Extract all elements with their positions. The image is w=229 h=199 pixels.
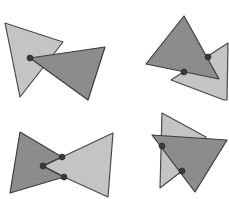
panel-bottom-right [152,113,227,192]
hinge-joint [27,55,33,61]
hinge-joint [40,163,46,169]
hinge-joint [181,69,187,75]
hinge-joint [59,154,65,160]
hinge-joint [159,143,165,149]
panel-bottom-left [10,132,113,197]
hinged-triangles-diagram [0,0,229,199]
light-triangle [43,133,113,197]
hinge-joint [179,168,185,174]
panel-top-left [5,23,105,100]
hinge-joint [205,54,211,60]
hinge-joint [61,174,67,180]
panel-top-right [146,16,228,100]
